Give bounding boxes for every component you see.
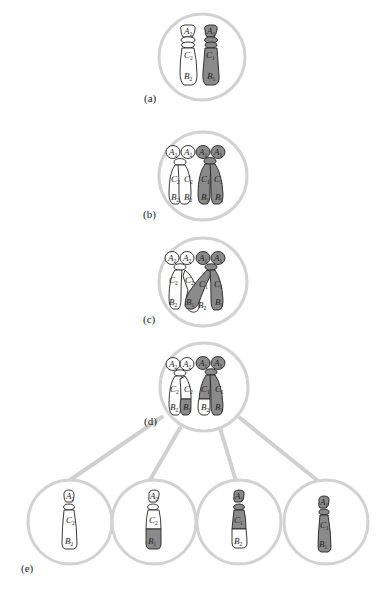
- panel-label-b: (b): [143, 208, 156, 220]
- panel-d: A2 A2 A1 A1 C2 C2 C1 C1 B2 B1 B2 B1: [160, 343, 248, 431]
- panel-a: A2 C2 B2 A1 C1 B1: [159, 14, 245, 100]
- panel-label-a: (a): [144, 92, 156, 104]
- panel-label-c: (c): [143, 313, 155, 325]
- connector-line-4: [240, 418, 318, 481]
- panel-b: A2 A2 A1 A1 C2 C2 C1 C1 B2 B2 B1 B1: [159, 132, 247, 220]
- diagram-canvas: A2 C2 B2 A1 C1 B1: [0, 0, 382, 590]
- panel-e: A2 C2 B2 A2 C2 B1 A1 C1 B2 A1 C1 B1: [28, 480, 368, 564]
- crossing-over-diagram: A2 C2 B2 A1 C1 B1: [0, 0, 382, 590]
- connector-line-2: [150, 428, 180, 480]
- panel-label-e: (e): [21, 562, 33, 574]
- panel-label-d: (d): [144, 415, 157, 427]
- panel-c: A2 A2 A1 A1 C2 C2 C1 C1 B2 B1 B2 B1: [159, 238, 247, 326]
- connector-line-3: [220, 428, 236, 481]
- cell-circle-a: [159, 14, 245, 100]
